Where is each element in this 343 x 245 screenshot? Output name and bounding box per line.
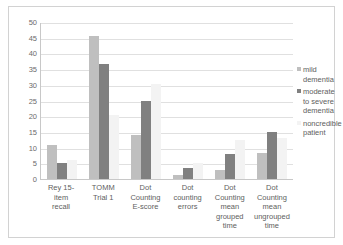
x-axis-tick-label-line: E-score <box>125 202 165 212</box>
x-axis-tick-label-line: time <box>252 221 292 231</box>
bar <box>183 168 193 179</box>
x-axis-tick-label-line: Trial 1 <box>83 193 123 203</box>
y-axis-tick-label: 50 <box>29 19 37 27</box>
x-axis-tick-label-line: Counting <box>210 193 250 203</box>
legend-item[interactable]: moderateto severedementia <box>297 87 343 116</box>
bar <box>193 163 203 179</box>
x-axis-tick-label-line: Dot <box>125 183 165 193</box>
x-axis-tick-label-line: Rey 15-item <box>41 183 81 202</box>
x-axis-tick-label: Dotcountingerrors <box>167 183 209 231</box>
x-axis-tick-label-line: grouped <box>210 212 250 222</box>
x-axis-tick-label-line: recall <box>41 202 81 212</box>
legend-label: moderateto severedementia <box>303 87 335 116</box>
bar-group <box>83 23 125 179</box>
x-axis-tick-label-line: Dot <box>252 183 292 193</box>
bar <box>277 138 287 179</box>
bar <box>235 140 245 179</box>
bar <box>267 132 277 179</box>
x-axis-tick-labels: Rey 15-itemrecallTOMMTrial 1DotCountingE… <box>40 183 293 231</box>
bar <box>151 84 161 179</box>
y-axis-tick-label: 15 <box>29 129 37 137</box>
x-axis-tick-label: TOMMTrial 1 <box>82 183 124 231</box>
x-axis-tick-label: DotCountingmeanungroupedtime <box>251 183 293 231</box>
y-axis-tick-label: 20 <box>29 113 37 121</box>
chart-figure: 50454035302520151050 Rey 15-itemrecallTO… <box>0 0 343 245</box>
bar <box>57 163 67 179</box>
y-axis-tick-label: 25 <box>29 98 37 106</box>
x-axis-tick-label: DotCountingmeangroupedtime <box>209 183 251 231</box>
y-axis-tick-label: 5 <box>33 161 37 169</box>
x-axis-tick-label-line: ungrouped <box>252 212 292 222</box>
bar-group <box>251 23 293 179</box>
bar <box>89 36 99 179</box>
chart-frame: 50454035302520151050 Rey 15-itemrecallTO… <box>8 6 335 238</box>
bar <box>131 135 141 179</box>
y-axis-tick-label: 45 <box>29 35 37 43</box>
legend-item[interactable]: noncrediblepatient <box>297 119 343 138</box>
legend-swatch-icon <box>297 67 301 71</box>
x-axis-tick-label: DotCountingE-score <box>124 183 166 231</box>
legend-label-line: moderate <box>303 87 335 97</box>
bar <box>141 101 151 180</box>
legend-item[interactable]: mild dementia <box>297 65 343 84</box>
bar <box>47 145 57 179</box>
legend-label-line: noncredible <box>303 119 342 129</box>
bar <box>225 154 235 179</box>
y-axis-tick-label: 0 <box>33 176 37 184</box>
bar <box>257 153 267 179</box>
bar <box>99 64 109 179</box>
x-axis-tick-label-line: TOMM <box>83 183 123 193</box>
y-axis-tick-label: 30 <box>29 82 37 90</box>
x-axis-tick-label-line: mean <box>252 202 292 212</box>
x-axis-tick-label-line: Counting <box>252 193 292 203</box>
x-axis-tick-label-line: Counting <box>125 193 165 203</box>
legend-label-line: mild dementia <box>303 65 343 84</box>
bar <box>109 115 119 179</box>
bar-group <box>209 23 251 179</box>
legend-swatch-icon <box>297 121 301 125</box>
bar-group <box>41 23 83 179</box>
legend-label-line: patient <box>303 128 342 138</box>
legend-label-line: to severe <box>303 97 335 107</box>
chart-legend: mild dementiamoderateto severedementiano… <box>297 65 343 141</box>
bar-group <box>125 23 167 179</box>
bar-groups <box>41 23 293 179</box>
x-axis-tick-label-line: mean <box>210 202 250 212</box>
x-axis-tick-label-line: Dot <box>168 183 208 193</box>
x-axis-tick-label-line: counting <box>168 193 208 203</box>
plot-area: 50454035302520151050 <box>40 23 293 180</box>
x-axis-tick-label-line: time <box>210 221 250 231</box>
x-axis-tick-label-line: Dot <box>210 183 250 193</box>
bar <box>215 170 225 179</box>
bar <box>173 175 183 179</box>
legend-label-line: dementia <box>303 106 335 116</box>
y-axis-tick-label: 40 <box>29 51 37 59</box>
bar-group <box>167 23 209 179</box>
legend-label: noncrediblepatient <box>303 119 342 138</box>
y-axis-tick-label: 35 <box>29 66 37 74</box>
legend-swatch-icon <box>297 89 301 93</box>
x-axis-tick-label-line: errors <box>168 202 208 212</box>
bar <box>67 160 77 179</box>
legend-label: mild dementia <box>303 65 343 84</box>
y-axis-tick-label: 10 <box>29 145 37 153</box>
x-axis-tick-label: Rey 15-itemrecall <box>40 183 82 231</box>
